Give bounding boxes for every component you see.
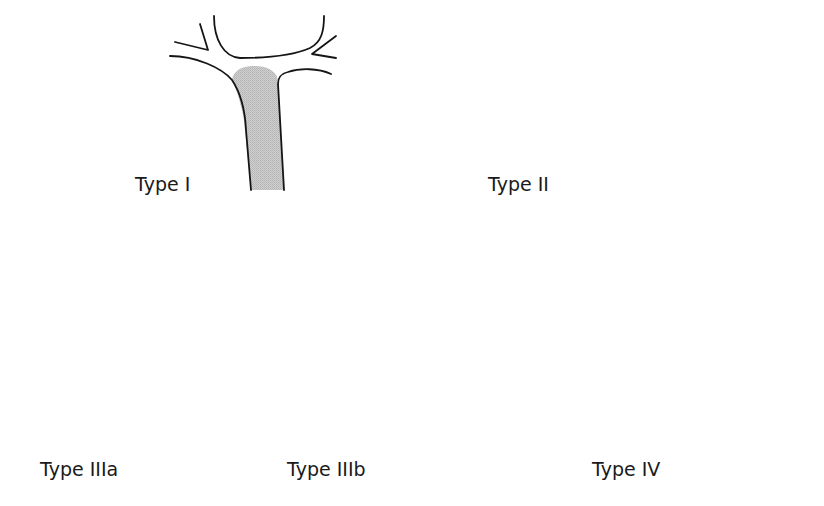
label-type-4: Type IV	[592, 460, 660, 479]
duct-line	[278, 69, 331, 190]
label-type-2: Type II	[488, 175, 549, 194]
duct-line	[214, 16, 324, 58]
tumor-region	[232, 66, 284, 190]
duct-line	[175, 24, 208, 50]
duct-line	[312, 36, 336, 58]
panel-type-1	[170, 16, 336, 190]
label-type-3b: Type IIIb	[287, 460, 366, 479]
label-type-3a: Type IIIa	[40, 460, 118, 479]
label-type-1: Type I	[135, 175, 190, 194]
bile-duct-classification-diagram	[0, 0, 824, 506]
